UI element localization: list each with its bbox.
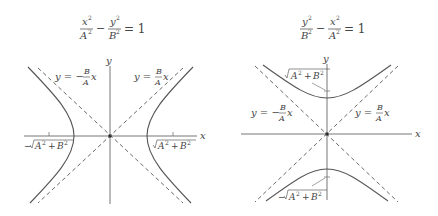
svg-text:2: 2 [298, 69, 302, 76]
svg-text:A: A [82, 78, 89, 87]
svg-text:2: 2 [116, 28, 120, 35]
figure-horizontal-hyperbola: x 2 A 2 − y 2 B 2 = 1 x y y = − [24, 14, 206, 204]
asymptote-label-neg: y = − B A x [250, 103, 293, 123]
svg-text:y = −: y = − [250, 107, 280, 118]
svg-text:B: B [312, 71, 320, 81]
hyperbola-branch-right [147, 67, 193, 203]
leader-line [312, 178, 325, 186]
svg-text:A: A [157, 141, 165, 151]
leader-line [312, 83, 325, 90]
equation-vertical: y 2 B 2 − x 2 A 2 = 1 [300, 14, 366, 41]
svg-text:−: − [96, 22, 105, 35]
svg-text:x: x [163, 71, 169, 82]
asymptote-label-neg: y = − B A x [54, 67, 97, 87]
svg-text:A: A [154, 78, 161, 87]
svg-text:y: y [301, 16, 308, 27]
svg-text:2: 2 [336, 28, 340, 35]
svg-text:2: 2 [336, 14, 340, 21]
svg-text:A: A [375, 114, 382, 123]
svg-text:A: A [34, 141, 42, 151]
svg-text:B: B [56, 141, 64, 151]
svg-text:+: + [171, 141, 179, 151]
asymptote-label-pos: y = B A x [133, 67, 169, 87]
svg-text:−: − [316, 22, 325, 35]
svg-text:B: B [83, 67, 90, 76]
focus-label-neg: − A 2 + B 2 [278, 178, 327, 202]
svg-text:+: + [48, 141, 56, 151]
svg-text:x: x [384, 107, 390, 118]
focus-label-pos: A 2 + B 2 [285, 69, 330, 90]
focus-label-neg: − A 2 + B 2 [24, 139, 73, 151]
svg-text:2: 2 [296, 190, 300, 197]
svg-text:B: B [179, 141, 187, 151]
svg-text:B: B [155, 67, 162, 76]
svg-text:B: B [279, 103, 286, 112]
svg-text:B: B [376, 103, 383, 112]
y-axis-label: y [105, 55, 112, 66]
svg-text:+: + [304, 71, 312, 81]
asymptote-label-pos: y = B A x [354, 103, 390, 123]
svg-text:2: 2 [42, 139, 46, 146]
svg-text:2: 2 [88, 14, 92, 21]
svg-text:2: 2 [64, 139, 68, 146]
y-axis-label: y [322, 53, 329, 64]
svg-text:x: x [91, 71, 97, 82]
svg-text:2: 2 [308, 28, 312, 35]
focus-label-pos: A 2 + B 2 [153, 139, 196, 151]
svg-text:A: A [288, 192, 296, 202]
x-axis-label: x [200, 130, 206, 141]
svg-text:+: + [302, 192, 310, 202]
svg-text:x: x [287, 107, 293, 118]
svg-text:A: A [79, 30, 87, 41]
hyperbola-diagrams: x 2 A 2 − y 2 B 2 = 1 x y y = − [0, 0, 438, 216]
svg-text:y: y [109, 16, 116, 27]
svg-text:A: A [278, 114, 285, 123]
svg-text:2: 2 [308, 14, 312, 21]
figure-vertical-hyperbola: y 2 B 2 − x 2 A 2 = 1 x y y = − [241, 14, 421, 202]
svg-text:y =: y = [133, 71, 151, 82]
svg-text:2: 2 [318, 190, 322, 197]
svg-text:= 1: = 1 [344, 22, 366, 36]
equation-horizontal: x 2 A 2 − y 2 B 2 = 1 [79, 14, 146, 41]
x-axis-label: x [415, 128, 421, 139]
svg-text:= 1: = 1 [124, 22, 146, 36]
svg-text:y =: y = [354, 107, 372, 118]
svg-text:y = −: y = − [54, 71, 84, 82]
svg-text:2: 2 [88, 28, 92, 35]
svg-text:A: A [328, 30, 336, 41]
svg-text:2: 2 [320, 69, 324, 76]
svg-text:2: 2 [165, 139, 169, 146]
svg-text:2: 2 [116, 14, 120, 21]
svg-text:B: B [310, 192, 318, 202]
svg-text:2: 2 [187, 139, 191, 146]
hyperbola-branch-left [28, 67, 74, 203]
svg-text:A: A [290, 71, 298, 81]
